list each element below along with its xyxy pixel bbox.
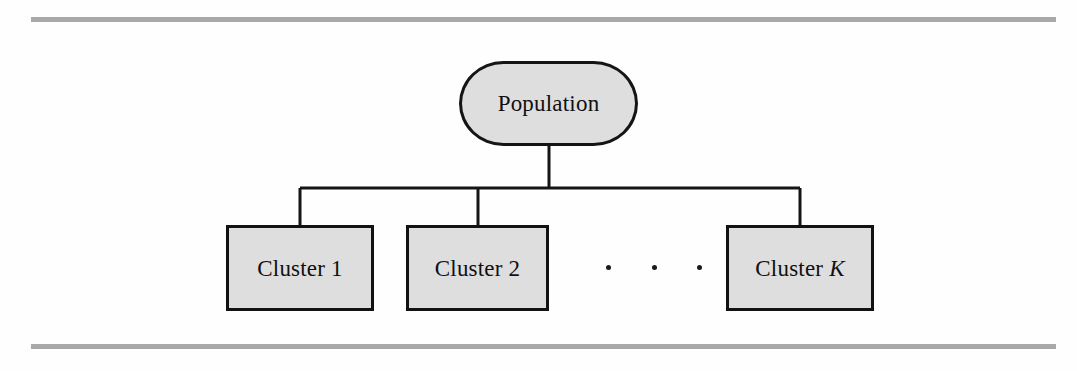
node-cluster-k-label-prefix: Cluster xyxy=(755,256,829,281)
node-population-label: Population xyxy=(498,92,600,115)
node-cluster-1-label: Cluster 1 xyxy=(257,257,343,280)
ellipsis-dot xyxy=(652,265,657,270)
ellipsis-dot xyxy=(606,265,611,270)
node-cluster-1: Cluster 1 xyxy=(226,225,374,311)
node-cluster-k: Cluster K xyxy=(726,225,874,311)
node-cluster-2-label: Cluster 2 xyxy=(435,257,521,280)
node-cluster-2: Cluster 2 xyxy=(406,225,549,311)
node-population: Population xyxy=(459,61,638,146)
bottom-rule xyxy=(31,344,1056,349)
node-cluster-k-label-index: K xyxy=(829,256,845,281)
ellipsis-dot xyxy=(697,265,702,270)
ellipsis-dots xyxy=(600,252,708,282)
figure-container: Population Cluster 1 Cluster 2 Cluster K xyxy=(0,0,1077,371)
node-cluster-k-label: Cluster K xyxy=(755,257,844,280)
connector-lines xyxy=(0,0,1077,371)
